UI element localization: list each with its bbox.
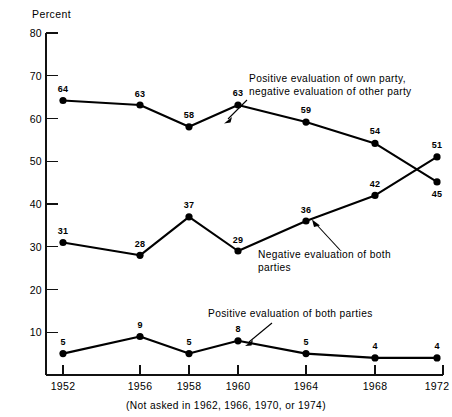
y-axis-title: Percent [32, 8, 71, 20]
series-1-value-1960: 63 [233, 88, 243, 98]
series-2-point-1972 [433, 153, 440, 160]
y-tick-label-40: 40 [30, 198, 42, 210]
series-1-line [63, 101, 437, 182]
series-1-point-1972 [433, 178, 440, 185]
x-axis-ticks: 1952 1956 1958 1960 1964 1968 1972 [51, 365, 450, 392]
series-1-point-1964 [302, 119, 309, 126]
annotation-negative-both: Negative evaluation of both parties [258, 220, 391, 274]
series-3-value-1972: 4 [434, 341, 439, 351]
series-3-point-1972 [433, 354, 440, 361]
series-2-value-1972: 51 [432, 140, 442, 150]
y-tick-label-60: 60 [30, 113, 42, 125]
series-2-point-1960 [234, 247, 241, 254]
series-1-point-1960 [234, 101, 241, 108]
series-3-point-1956 [136, 333, 143, 340]
series-2-value-1956: 28 [135, 239, 145, 249]
x-tick-label-1958: 1958 [177, 380, 202, 392]
series-3-point-1964 [302, 350, 309, 357]
y-tick-label-70: 70 [30, 70, 42, 82]
annotation-negative-both-line1: Negative evaluation of both [258, 249, 391, 260]
line-chart-plot: Percent 80 70 60 50 40 30 20 10 1 [0, 0, 452, 417]
y-tick-label-50: 50 [30, 155, 42, 167]
series-3-value-1956: 9 [137, 320, 142, 330]
series-positive-own-negative-other: 64 63 58 63 59 54 45 [58, 84, 442, 199]
series-3-value-1964: 5 [303, 337, 308, 347]
series-3-point-1952 [59, 350, 66, 357]
series-1-point-1958 [185, 123, 192, 130]
series-1-value-1958: 58 [184, 110, 194, 120]
series-1-value-1956: 63 [135, 89, 145, 99]
series-2-point-1956 [136, 252, 143, 259]
series-2-value-1964: 36 [301, 205, 311, 215]
annotation-own-party-line1: Positive evaluation of own party, [249, 73, 406, 84]
annotation-own-party-arrowhead [224, 117, 232, 124]
y-tick-label-30: 30 [30, 241, 42, 253]
y-tick-label-20: 20 [30, 284, 42, 296]
annotation-positive-both-line1: Positive evaluation of both parties [208, 308, 373, 319]
series-3-value-1960: 8 [235, 324, 240, 334]
series-2-value-1952: 31 [58, 226, 68, 236]
series-1-value-1972: 45 [432, 189, 442, 199]
x-tick-label-1972: 1972 [425, 380, 450, 392]
series-3-value-1958: 5 [186, 337, 191, 347]
chart-footnote: (Not asked in 1962, 1966, 1970, or 1974) [126, 400, 326, 411]
x-tick-label-1968: 1968 [363, 380, 388, 392]
series-3-line [63, 337, 437, 358]
series-3-point-1960 [234, 337, 241, 344]
series-1-point-1952 [59, 97, 66, 104]
annotation-own-party-line2: negative evaluation of other party [249, 86, 412, 97]
series-3-point-1968 [371, 354, 378, 361]
series-2-value-1960: 29 [233, 235, 243, 245]
series-2-value-1968: 42 [370, 179, 380, 189]
y-axis-ticks: 80 70 60 50 40 30 20 10 [30, 27, 58, 338]
x-tick-label-1952: 1952 [51, 380, 76, 392]
series-1-value-1952: 64 [58, 84, 68, 94]
x-tick-label-1956: 1956 [128, 380, 153, 392]
series-2-point-1958 [185, 213, 192, 220]
series-2-value-1958: 37 [184, 200, 194, 210]
series-negative-both-parties: 31 28 37 29 36 42 51 [58, 140, 442, 259]
x-tick-label-1960: 1960 [226, 380, 251, 392]
series-3-value-1952: 5 [60, 337, 65, 347]
series-2-point-1964 [302, 217, 309, 224]
annotation-negative-both-arrowhead [312, 220, 320, 228]
series-1-value-1964: 59 [301, 105, 311, 115]
series-2-point-1968 [371, 192, 378, 199]
x-tick-label-1964: 1964 [294, 380, 319, 392]
series-3-point-1958 [185, 350, 192, 357]
series-3-value-1968: 4 [372, 341, 377, 351]
series-2-line [63, 157, 437, 255]
y-tick-label-10: 10 [30, 326, 42, 338]
annotation-own-party: Positive evaluation of own party, negati… [224, 73, 412, 124]
chart-container: Percent 80 70 60 50 40 30 20 10 1 [0, 0, 452, 417]
series-1-point-1968 [371, 140, 378, 147]
series-1-point-1956 [136, 101, 143, 108]
annotation-negative-both-leader [316, 224, 340, 250]
series-1-value-1968: 54 [370, 126, 380, 136]
y-tick-label-80: 80 [30, 27, 42, 39]
annotation-positive-both-leader [249, 323, 272, 342]
annotation-negative-both-line2: parties [258, 262, 291, 273]
series-2-point-1952 [59, 239, 66, 246]
annotation-positive-both: Positive evaluation of both parties [208, 308, 373, 346]
